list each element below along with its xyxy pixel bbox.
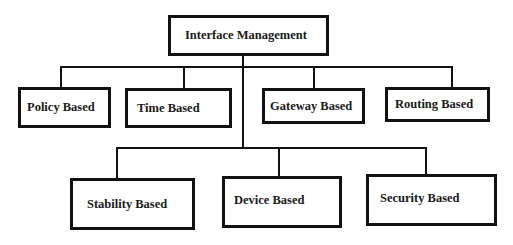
node-policy-based: Policy Based (18, 87, 111, 128)
top-branch-connector (60, 66, 453, 68)
node-label: Device Based (234, 193, 304, 208)
node-device-based: Device Based (222, 176, 342, 228)
node-label: Gateway Based (270, 99, 352, 114)
trunk-connector (242, 55, 244, 149)
node-time-based: Time Based (125, 88, 232, 128)
connector-security (425, 147, 427, 175)
connector-gateway (313, 66, 315, 88)
node-gateway-based: Gateway Based (262, 88, 365, 124)
node-stability-based: Stability Based (70, 178, 195, 230)
node-routing-based: Routing Based (385, 87, 490, 122)
node-label: Stability Based (87, 197, 167, 212)
node-interface-management: Interface Management (168, 15, 329, 56)
node-label: Security Based (380, 191, 460, 206)
node-label: Time Based (137, 101, 200, 116)
connector-routing (451, 66, 453, 88)
connector-policy (60, 66, 62, 88)
bottom-branch-connector (116, 147, 427, 149)
node-label: Interface Management (185, 28, 307, 43)
connector-time (183, 66, 185, 88)
connector-device (278, 147, 280, 177)
node-security-based: Security Based (366, 174, 497, 226)
node-label: Policy Based (27, 100, 95, 115)
node-label: Routing Based (395, 97, 473, 112)
connector-stability (116, 147, 118, 179)
